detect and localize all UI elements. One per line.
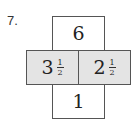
left-cell-numerator: 1 [57,59,64,68]
top-cell: 6 [52,16,105,51]
left-cell-denominator: 2 [58,68,63,77]
right-cell: 2 1 2 [78,50,131,85]
right-cell-whole: 2 [93,58,105,77]
problem-number: 7. [7,13,18,28]
left-cell: 3 1 2 [26,50,79,85]
right-cell-fraction: 1 2 [109,59,116,77]
top-cell-value: 6 [72,24,84,43]
right-cell-denominator: 2 [110,68,115,77]
left-cell-fraction: 1 2 [57,59,64,77]
bottom-cell: 1 [52,84,105,119]
bottom-cell-value: 1 [72,92,84,111]
right-cell-numerator: 1 [109,59,116,68]
left-cell-whole: 3 [41,58,53,77]
